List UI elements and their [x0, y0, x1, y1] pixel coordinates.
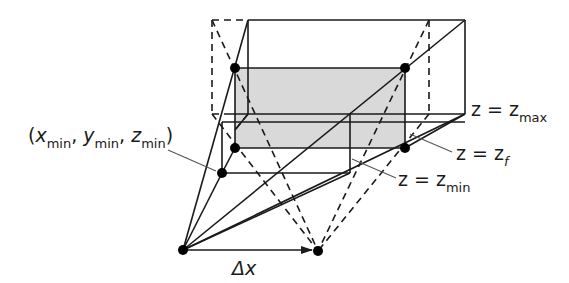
z-min-label: z = zmin: [398, 170, 470, 194]
z-max-sub: max: [519, 110, 547, 125]
x-var: x: [35, 124, 46, 146]
sep-2: ,: [119, 124, 125, 146]
point-zf-bottom-left: [230, 143, 240, 153]
y-sub: min: [95, 136, 120, 151]
point-zmin-corner: [217, 168, 227, 178]
z-min-lhs: z = z: [398, 168, 446, 190]
z-max-lhs: z = z: [471, 98, 519, 120]
right-eye-point: [313, 246, 323, 256]
z-f-leader: [410, 134, 452, 152]
z-max-label: z = zmax: [471, 100, 547, 124]
left-eye-rays: [183, 20, 465, 250]
point-zf-top-right: [400, 63, 410, 73]
y-var: y: [83, 124, 94, 146]
point-zf-bottom-right: [400, 143, 410, 153]
paren-close: ): [166, 124, 173, 146]
corner-label: (xmin, ymin, zmin): [28, 126, 173, 150]
focal-plane-shade: [235, 68, 405, 148]
left-eye-point: [178, 245, 188, 255]
sep-1: ,: [71, 124, 77, 146]
z-f-lhs: z = z: [456, 142, 504, 164]
z-f-label: z = zf: [456, 144, 509, 168]
point-zf-top-left: [230, 63, 240, 73]
delta-x-label: Δx: [232, 259, 256, 278]
z-f-sub: f: [504, 154, 509, 169]
z-sub: min: [141, 136, 166, 151]
z-min-sub: min: [446, 180, 471, 195]
x-sub: min: [47, 136, 72, 151]
z-var: z: [131, 124, 141, 146]
